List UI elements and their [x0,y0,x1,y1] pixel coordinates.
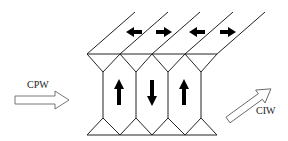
top-zigzag [87,54,217,72]
arrow-up-icon [114,79,124,105]
inlet-arrow-icon [15,91,69,109]
diagram-canvas: CPW CIW [0,0,288,141]
outlet-label: CIW [256,105,276,116]
inlet-label: CPW [27,79,49,90]
arrow-left-icon [126,27,142,37]
arrow-up-icon [179,79,189,105]
arrow-down-icon [147,80,157,106]
cell-arrows [114,79,189,106]
arrow-right-icon [220,27,236,37]
bottom-zigzag [87,118,217,135]
arrow-left-icon [189,27,205,37]
arrow-right-icon [156,27,172,37]
